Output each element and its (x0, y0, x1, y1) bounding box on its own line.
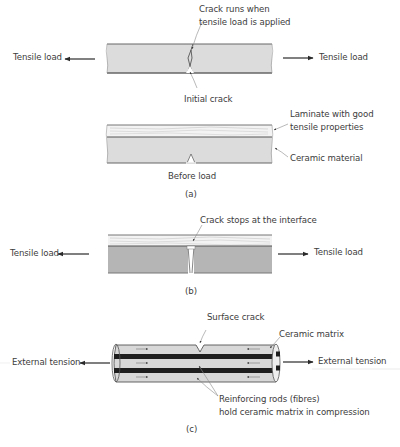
laminate-label-line1: Laminate with good (290, 108, 374, 121)
caption-b: (b) (185, 286, 197, 296)
initial-crack-label: Initial crack (184, 93, 232, 106)
external-tension-right: External tension (318, 355, 386, 368)
surface-crack-label: Surface crack (207, 311, 264, 324)
external-tension-left: External tension (12, 356, 80, 369)
laminate-label-line2: tensile properties (290, 121, 363, 134)
crack-stops-label: Crack stops at the interface (200, 214, 317, 227)
reinforcing-rods-label-line2: hold ceramic matrix in compression (219, 406, 370, 419)
panel-b-laminate-bar (108, 235, 272, 273)
reinforcing-rods-label-line1: Reinforcing rods (fibres) (219, 393, 320, 406)
tensile-load-right-b: Tensile load (314, 246, 363, 259)
crack-runs-label-line2: tensile load is applied (199, 16, 290, 29)
before-load-label: Before load (168, 170, 216, 183)
tensile-load-left-a: Tensile load (13, 51, 62, 64)
caption-a: (a) (185, 189, 197, 199)
panel-a-cracked-bar (106, 44, 273, 73)
crack-runs-label-line1: Crack runs when (199, 3, 270, 16)
panel-c-reinforced-cylinder (112, 344, 280, 382)
tensile-load-right-a: Tensile load (319, 51, 368, 64)
ceramic-material-label: Ceramic material (290, 152, 363, 165)
ceramic-matrix-label: Ceramic matrix (279, 328, 344, 341)
panel-a-laminate-bar (106, 125, 273, 163)
tensile-load-left-b: Tensile load (10, 247, 59, 260)
caption-c: (c) (186, 424, 197, 434)
